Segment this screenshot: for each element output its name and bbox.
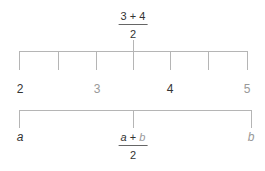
tick-5 [247, 51, 248, 70]
tick-2 [19, 51, 20, 70]
label-2: 2 [17, 83, 24, 95]
bottom-tick-left [19, 110, 20, 128]
tick-2-25 [58, 51, 59, 70]
bottom-horizontal-line [19, 110, 252, 111]
top-fraction-numerator: 3 + 4 [119, 10, 148, 25]
tick-center [133, 40, 134, 70]
tick-4 [170, 51, 171, 70]
label-a: a [17, 131, 24, 143]
top-midpoint-fraction: 3 + 4 2 [119, 10, 148, 40]
tick-3 [96, 51, 97, 70]
label-b: b [248, 131, 255, 143]
bottom-fraction-denominator: 2 [119, 146, 148, 161]
label-5: 5 [244, 83, 251, 95]
tick-4-5 [208, 51, 209, 70]
bottom-midpoint-fraction: a + b 2 [119, 131, 148, 161]
bottom-tick-right [251, 110, 252, 128]
top-fraction-denominator: 2 [119, 25, 148, 40]
label-4: 4 [167, 83, 174, 95]
bottom-fraction-numerator: a + b [119, 131, 148, 146]
label-3: 3 [94, 83, 101, 95]
bottom-tick-center [133, 110, 134, 128]
